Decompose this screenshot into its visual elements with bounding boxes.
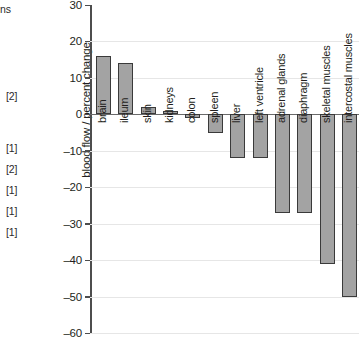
gridline bbox=[90, 333, 359, 334]
y-axis-tick bbox=[85, 5, 90, 7]
margin-note: [1] bbox=[6, 142, 17, 154]
y-axis-tick bbox=[85, 77, 90, 79]
y-axis-tick bbox=[85, 150, 90, 152]
gridline bbox=[90, 151, 359, 152]
bar-category-label: spleen bbox=[208, 92, 220, 123]
y-axis-tick-label: –50 bbox=[63, 291, 82, 303]
bar bbox=[275, 114, 290, 212]
bar bbox=[297, 114, 312, 212]
margin-note: [2] bbox=[6, 90, 17, 102]
gridline bbox=[90, 260, 359, 261]
bar-category-label: skin bbox=[141, 105, 153, 124]
y-axis-tick-label: –20 bbox=[63, 181, 82, 193]
y-axis-tick bbox=[85, 223, 90, 225]
bar-category-label: ileum bbox=[118, 98, 130, 123]
y-axis-line bbox=[90, 5, 92, 333]
zero-baseline bbox=[90, 114, 359, 115]
gridline bbox=[90, 224, 359, 225]
y-axis-tick bbox=[85, 187, 90, 189]
bar-category-label: left ventricle bbox=[253, 67, 265, 123]
margin-note: [1] bbox=[6, 205, 17, 217]
y-axis-tick bbox=[85, 333, 90, 335]
y-axis-tick bbox=[85, 41, 90, 43]
margin-note: [1] bbox=[6, 184, 17, 196]
margin-note: ns bbox=[0, 3, 11, 15]
bar bbox=[342, 114, 357, 296]
y-axis-tick-label: –60 bbox=[63, 327, 82, 339]
bar-category-label: intercostal muscles bbox=[342, 34, 354, 124]
y-axis-tick-label: –30 bbox=[63, 218, 82, 230]
bar-chart: blood flow / percent change 3020100–10–2… bbox=[38, 0, 359, 351]
y-axis-tick-label: –10 bbox=[63, 145, 82, 157]
y-axis-tick-label: 30 bbox=[70, 0, 82, 11]
y-axis-tick bbox=[85, 260, 90, 262]
bar-category-label: diaphragm bbox=[297, 73, 309, 123]
margin-note: [2] bbox=[6, 163, 17, 175]
gridline bbox=[90, 297, 359, 298]
y-axis-tick-label: 0 bbox=[76, 108, 82, 120]
bar-category-label: adrenal glands bbox=[275, 54, 287, 123]
gridline bbox=[90, 41, 359, 42]
bar-category-label: brain bbox=[96, 100, 108, 123]
y-axis-tick-label: 10 bbox=[70, 72, 82, 84]
y-axis-tick-label: –40 bbox=[63, 254, 82, 266]
bar-category-label: liver bbox=[230, 104, 242, 123]
y-axis-tick-label: 20 bbox=[70, 35, 82, 47]
margin-annotations: ns[2][1][2][1][1][1] bbox=[0, 0, 38, 351]
bar-category-label: colon bbox=[185, 98, 197, 123]
plot-area: 3020100–10–20–30–40–50–60brainileumskink… bbox=[90, 5, 359, 333]
y-axis-tick bbox=[85, 296, 90, 298]
margin-note: [1] bbox=[6, 226, 17, 238]
bar-category-label: skeletal muscles bbox=[320, 46, 332, 124]
bar bbox=[320, 114, 335, 263]
bar-category-label: kidneys bbox=[163, 87, 175, 123]
gridline bbox=[90, 187, 359, 188]
